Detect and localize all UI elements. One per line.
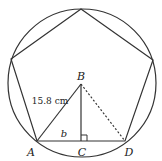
label-base-b: b [61, 128, 67, 139]
label-A: A [26, 146, 35, 159]
label-D: D [124, 146, 134, 159]
segment-BD-dashed [81, 84, 125, 141]
label-hypotenuse-length: 15.8 cm [32, 96, 69, 106]
label-B: B [76, 70, 85, 83]
right-angle-marker [81, 135, 87, 141]
segment-AB [37, 84, 81, 141]
label-C: C [78, 146, 87, 159]
pentagon-circle-diagram: B A C D 15.8 cm b [0, 0, 162, 161]
